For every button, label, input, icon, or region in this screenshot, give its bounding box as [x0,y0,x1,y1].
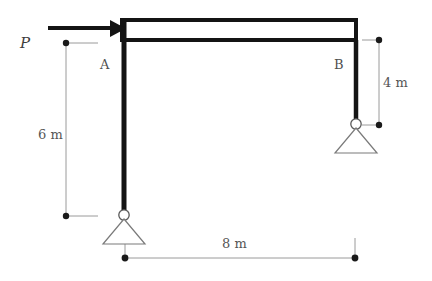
dimension-label-span: 8 m [222,237,247,250]
frame-diagram: P A B 6 m 4 m 8 m [0,0,432,281]
support-left-graphic [103,210,145,244]
dimension-left-height-graphic [63,40,98,219]
beam-top-graphic [120,19,358,41]
frame-drawing [0,0,432,281]
support-right-triangle [335,128,377,153]
node-label-b: B [334,58,344,71]
dimension-right-dot-bottom [376,122,382,128]
load-label-p: P [20,36,30,51]
support-left-triangle [103,219,145,244]
dimension-left-dot-top [63,40,69,46]
load-arrow-p [48,20,126,37]
dimension-left-dot-bottom [63,213,69,219]
dimension-right-dot-top [376,37,382,43]
dimension-span-dot-left [122,255,129,262]
dimension-right-height-graphic [362,37,382,128]
dimension-span-dot-right [352,255,359,262]
support-right-graphic [335,119,377,153]
node-label-a: A [100,58,109,71]
dimension-label-right-height: 4 m [383,76,408,89]
dimension-label-left-height: 6 m [38,128,63,141]
